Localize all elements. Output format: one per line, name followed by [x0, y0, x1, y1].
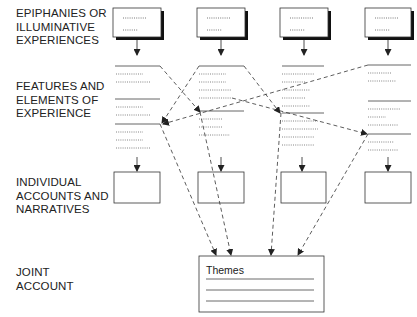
- epiphany-box-3: [280, 8, 331, 40]
- epiphany-down-arrows: [137, 40, 388, 55]
- features-column-3: [282, 66, 324, 145]
- features-column-2: [199, 66, 244, 135]
- features-column-1: [115, 66, 160, 148]
- individual-account-box-1: [114, 172, 160, 203]
- individual-account-box-2: [198, 172, 244, 203]
- joint-account-arrows: [160, 112, 368, 255]
- feature-cross-arrows: [160, 65, 368, 134]
- individual-account-boxes: [114, 172, 411, 203]
- individual-account-box-3: [281, 172, 326, 203]
- individual-account-box-4: [365, 172, 411, 203]
- epiphany-box-1: [113, 8, 164, 40]
- joint-account-themes-label: Themes: [206, 264, 244, 276]
- epiphany-box-4: [365, 8, 414, 40]
- epiphany-box-2: [197, 8, 248, 40]
- features-column-4: [368, 65, 411, 150]
